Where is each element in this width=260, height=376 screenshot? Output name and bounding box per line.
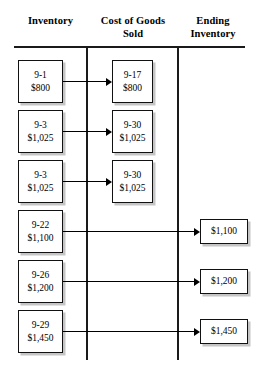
column-divider-left <box>86 47 88 360</box>
flow-connector-line <box>63 81 106 83</box>
cogs-box-amount: $1,025 <box>119 132 145 145</box>
column-header-inventory-label: Inventory <box>28 15 73 26</box>
inventory-box-date: 9-1 <box>34 69 47 82</box>
ending-inventory-box-amount: $1,100 <box>211 225 237 238</box>
flow-connector-line <box>63 331 194 333</box>
inventory-box-date: 9-3 <box>34 169 47 182</box>
flow-arrow-head-icon <box>194 328 200 336</box>
column-divider-right <box>177 47 179 360</box>
inventory-box-date: 9-29 <box>32 319 49 332</box>
column-header-cogs-line1: Cost of Goods <box>101 15 165 26</box>
inventory-box-amount: $1,450 <box>27 332 53 345</box>
flow-arrow-head-icon <box>194 278 200 286</box>
inventory-box-amount: $1,025 <box>27 132 53 145</box>
flow-arrow-head-icon <box>106 178 112 186</box>
flow-arrow-head-icon <box>106 78 112 86</box>
column-header-ending-line1: Ending <box>196 15 229 26</box>
inventory-box-date: 9-22 <box>32 219 49 232</box>
cost-of-goods-sold-box: 9-30$1,025 <box>112 160 153 203</box>
header-horizontal-rule <box>14 46 245 48</box>
ending-inventory-box: $1,200 <box>200 269 248 294</box>
ending-inventory-box-amount: $1,200 <box>211 275 237 288</box>
flow-connector-line <box>63 231 194 233</box>
inventory-box: 9-3$1,025 <box>18 160 63 203</box>
column-header-ending-line2: Inventory <box>190 28 235 39</box>
column-header-cogs-line2: Sold <box>123 28 143 39</box>
inventory-flow-diagram: Inventory Cost of Goods Sold Ending Inve… <box>0 0 260 376</box>
column-header-cost-of-goods-sold: Cost of Goods Sold <box>90 14 176 40</box>
inventory-box: 9-22$1,100 <box>18 210 63 253</box>
inventory-box-date: 9-26 <box>32 269 49 282</box>
cost-of-goods-sold-box: 9-17$800 <box>112 60 153 103</box>
flow-connector-line <box>63 281 194 283</box>
ending-inventory-box: $1,450 <box>200 319 248 344</box>
inventory-box: 9-26$1,200 <box>18 260 63 303</box>
inventory-box: 9-1$800 <box>18 60 63 103</box>
cogs-box-date: 9-30 <box>124 119 141 132</box>
column-header-inventory: Inventory <box>14 14 87 27</box>
inventory-box-amount: $1,100 <box>27 232 53 245</box>
cogs-box-date: 9-30 <box>124 169 141 182</box>
ending-inventory-box: $1,100 <box>200 219 248 244</box>
cost-of-goods-sold-box: 9-30$1,025 <box>112 110 153 153</box>
inventory-box-amount: $800 <box>31 82 50 95</box>
ending-inventory-box-amount: $1,450 <box>211 325 237 338</box>
flow-connector-line <box>63 131 106 133</box>
cogs-box-amount: $1,025 <box>119 182 145 195</box>
inventory-box-date: 9-3 <box>34 119 47 132</box>
inventory-box-amount: $1,200 <box>27 282 53 295</box>
inventory-box: 9-29$1,450 <box>18 310 63 353</box>
cogs-box-date: 9-17 <box>124 69 141 82</box>
cogs-box-amount: $800 <box>123 82 142 95</box>
flow-arrow-head-icon <box>106 128 112 136</box>
inventory-box-amount: $1,025 <box>27 182 53 195</box>
flow-arrow-head-icon <box>194 228 200 236</box>
flow-connector-line <box>63 181 106 183</box>
inventory-box: 9-3$1,025 <box>18 110 63 153</box>
column-header-ending-inventory: Ending Inventory <box>180 14 246 40</box>
